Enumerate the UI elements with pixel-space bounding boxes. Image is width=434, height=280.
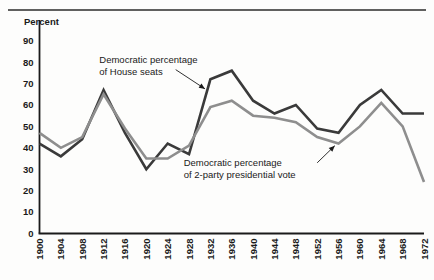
- annotation-line: of 2-party presidential vote: [184, 169, 296, 180]
- annotation-label-house-seats: Democratic percentageof House seats: [99, 54, 197, 77]
- x-tick-label: 1972: [419, 239, 430, 260]
- x-tick-label: 1936: [226, 239, 237, 260]
- y-tick-label: 10: [23, 206, 34, 217]
- y-tick-label: 60: [23, 99, 34, 110]
- x-tick-label: 1904: [55, 238, 66, 260]
- y-tick-label: 20: [23, 185, 34, 196]
- y-tick-label: 50: [23, 121, 34, 132]
- x-tick-label: 1924: [162, 238, 173, 260]
- annotation-line: Democratic percentage: [184, 157, 282, 168]
- annotation-arrow-head-house-seats: [199, 83, 205, 88]
- x-tick-label: 1900: [34, 239, 45, 260]
- y-tick-labels: 0102030405060708090: [23, 35, 34, 239]
- x-tick-label: 1968: [397, 239, 408, 260]
- y-tick-label: 40: [23, 142, 34, 153]
- y-tick-label: 80: [23, 57, 34, 68]
- x-tick-label: 1932: [205, 239, 216, 260]
- annotations-group: Democratic percentageof House seatsDemoc…: [99, 54, 335, 179]
- axes: [39, 20, 424, 234]
- x-tick-label: 1940: [248, 239, 259, 260]
- y-axis-title: Percent: [24, 16, 60, 27]
- x-tick-label: 1916: [119, 239, 130, 260]
- y-tick-label: 30: [23, 164, 34, 175]
- x-tick-label: 1948: [290, 239, 301, 260]
- x-tick-label: 1912: [98, 239, 109, 260]
- y-tick-label: 0: [28, 228, 33, 239]
- x-tick-label: 1920: [141, 239, 152, 260]
- x-tick-label: 1956: [333, 239, 344, 260]
- chart-figure: 0102030405060708090 19001904190819121916…: [0, 0, 434, 280]
- annotation-line: Democratic percentage: [99, 54, 197, 65]
- annotation-label-presidential-vote: Democratic percentageof 2-party presiden…: [184, 157, 296, 180]
- x-tick-label: 1908: [77, 239, 88, 260]
- line-chart: 0102030405060708090 19001904190819121916…: [0, 0, 434, 280]
- x-tick-labels: 1900190419081912191619201924192819321936…: [34, 238, 430, 260]
- x-tick-label: 1928: [184, 239, 195, 260]
- annotation-line: of House seats: [99, 66, 163, 77]
- x-tick-label: 1952: [312, 239, 323, 260]
- x-tick-label: 1960: [354, 239, 365, 260]
- x-tick-label: 1964: [376, 238, 387, 260]
- y-tick-label: 90: [23, 35, 34, 46]
- y-tick-label: 70: [23, 78, 34, 89]
- x-tick-label: 1944: [269, 238, 280, 260]
